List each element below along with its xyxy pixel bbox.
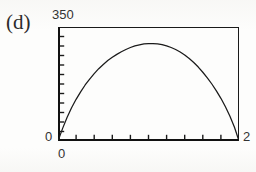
figure-panel-d: (d) 350 0 0 2 [0,0,256,172]
x-axis-max-label: 2 [243,130,250,144]
y-axis-ticks [60,37,65,132]
y-axis-max-label: 350 [52,8,74,22]
data-curve-series-1 [58,44,239,141]
panel-label: (d) [6,11,31,33]
plot-canvas [58,27,239,141]
x-axis-min-label: 0 [58,147,65,161]
x-axis-ticks [76,135,221,140]
y-axis-min-label: 0 [45,130,52,144]
plot-area [58,27,239,141]
